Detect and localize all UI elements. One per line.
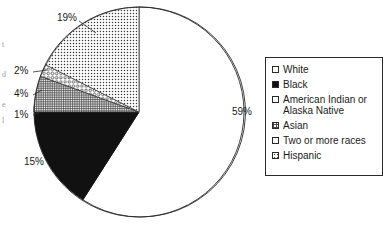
legend-swatch-american-indian-icon <box>272 96 279 103</box>
legend-label-white: White <box>283 64 309 75</box>
legend-swatch-white-icon <box>272 66 279 73</box>
legend-item-hispanic[interactable]: Hispanic <box>272 150 377 161</box>
pie-plot-area: 19% 2% 4% 1% 15% 59% <box>0 0 260 225</box>
legend-item-american-indian-or-alaska-native[interactable]: American Indian or Alaska Native <box>272 94 377 116</box>
legend-item-white[interactable]: White <box>272 64 377 75</box>
legend-label-asian: Asian <box>283 120 308 131</box>
legend-swatch-hispanic-icon <box>272 152 279 159</box>
legend-swatch-black-icon <box>272 81 279 88</box>
chart-legend: White Black American Indian or Alaska Na… <box>265 57 383 176</box>
legend-swatch-asian-icon <box>272 122 279 129</box>
legend-item-black[interactable]: Black <box>272 79 377 90</box>
legend-item-asian[interactable]: Asian <box>272 120 377 131</box>
legend-label-hispanic: Hispanic <box>283 150 321 161</box>
legend-swatch-two-or-more-races-icon <box>272 137 279 144</box>
pie-value-label-black: 15% <box>24 157 44 167</box>
legend-label-american-indian-or-alaska-native: American Indian or Alaska Native <box>283 94 367 116</box>
pie-value-label-two-or-more-races: 2% <box>14 66 28 76</box>
pie-svg <box>0 0 260 225</box>
pie-chart-figure: t d e l <box>0 0 392 225</box>
pie-value-label-american-indian: 1% <box>14 110 28 120</box>
legend-label-black: Black <box>283 79 307 90</box>
pie-value-label-asian: 4% <box>14 89 28 99</box>
pie-value-label-white: 59% <box>232 107 252 117</box>
pie-value-label-hispanic: 19% <box>57 13 77 23</box>
legend-item-two-or-more-races[interactable]: Two or more races <box>272 135 377 146</box>
legend-label-two-or-more-races: Two or more races <box>283 135 366 146</box>
